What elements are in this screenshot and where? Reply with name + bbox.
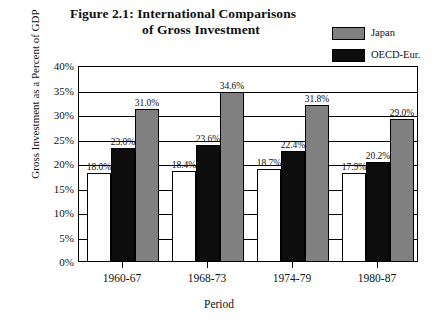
y-tick-label: 0%	[34, 257, 74, 268]
x-tick-label-1968-73: 1968-73	[172, 272, 242, 285]
x-axis-tick-mark	[292, 262, 293, 268]
legend-swatch-japan	[332, 27, 365, 40]
legend-item-japan: Japan	[332, 24, 436, 42]
y-tick-label: 5%	[34, 233, 74, 244]
bar-group-1960-67: 18.0% 23.0% 31.0%	[87, 67, 159, 261]
bar-us-1968-73[interactable]: 18.4%	[172, 171, 196, 261]
bar-value-label: 34.6%	[220, 81, 245, 91]
bar-japan-1980-87[interactable]: 29.0%	[390, 119, 414, 261]
x-axis-title: Period	[0, 298, 438, 310]
bar-value-label: 29.0%	[390, 108, 415, 118]
bar-japan-1960-67[interactable]: 31.0%	[135, 109, 159, 261]
y-tick-label: 10%	[34, 208, 74, 219]
bar-japan-1974-79[interactable]: 31.8%	[305, 105, 329, 261]
x-tick-label-1960-67: 1960-67	[87, 272, 157, 285]
bar-value-label: 18.7%	[257, 158, 282, 168]
y-tick-label: 20%	[34, 159, 74, 170]
y-tick-label: 30%	[34, 110, 74, 121]
chart-title-line-2: of Gross Investment	[48, 22, 318, 38]
chart-title: Figure 2.1: International Comparisons of…	[48, 6, 318, 38]
bar-value-label: 22.4%	[281, 140, 306, 150]
bar-value-label: 17.9%	[342, 162, 367, 172]
x-axis-tick-mark	[377, 262, 378, 268]
plot-area: 18.0% 23.0% 31.0% 18.4% 23.6% 34.6% 18.7…	[78, 66, 418, 262]
chart-title-line-1: Figure 2.1: International Comparisons	[70, 6, 296, 21]
bar-group-1974-79: 18.7% 22.4% 31.8%	[257, 67, 329, 261]
y-axis-tick-labels: 40% 35% 30% 25% 20% 15% 10% 5% 0%	[30, 66, 74, 262]
legend-item-oecd-eur: OECD-Eur.	[332, 46, 436, 64]
bar-group-1968-73: 18.4% 23.6% 34.6%	[172, 67, 244, 261]
x-axis-tick-mark	[207, 262, 208, 268]
bar-japan-1968-73[interactable]: 34.6%	[220, 92, 244, 262]
bar-oecd-1960-67[interactable]: 23.0%	[111, 148, 135, 261]
y-tick-label: 25%	[34, 135, 74, 146]
bar-us-1960-67[interactable]: 18.0%	[87, 173, 111, 261]
legend-label-japan: Japan	[371, 27, 395, 39]
y-tick-label: 35%	[34, 86, 74, 97]
x-axis-tick-mark	[122, 262, 123, 268]
bar-value-label: 31.8%	[305, 94, 330, 104]
bar-value-label: 18.4%	[172, 160, 197, 170]
bar-us-1974-79[interactable]: 18.7%	[257, 169, 281, 261]
legend-swatch-oecd-eur	[332, 49, 365, 62]
bar-value-label: 23.6%	[196, 134, 221, 144]
y-tick-label: 40%	[34, 61, 74, 72]
x-tick-label-1980-87: 1980-87	[342, 272, 412, 285]
bar-value-label: 31.0%	[135, 98, 160, 108]
x-tick-label-1974-79: 1974-79	[257, 272, 327, 285]
legend-label-oecd-eur: OECD-Eur.	[371, 49, 420, 61]
bar-oecd-1968-73[interactable]: 23.6%	[196, 145, 220, 261]
bar-value-label: 23.0%	[111, 137, 136, 147]
y-tick-label: 15%	[34, 184, 74, 195]
bar-us-1980-87[interactable]: 17.9%	[342, 173, 366, 261]
bar-value-label: 18.0%	[87, 162, 112, 172]
bar-group-1980-87: 17.9% 20.2% 29.0%	[342, 67, 414, 261]
bar-oecd-1974-79[interactable]: 22.4%	[281, 151, 305, 261]
bar-oecd-1980-87[interactable]: 20.2%	[366, 162, 390, 261]
bar-value-label: 20.2%	[366, 151, 391, 161]
